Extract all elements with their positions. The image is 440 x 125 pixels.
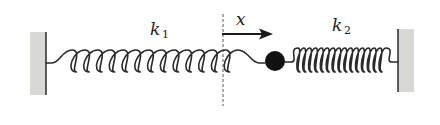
svg-text:1: 1	[162, 28, 169, 41]
right-wall	[398, 29, 414, 92]
svg-text:k: k	[332, 15, 342, 35]
mass	[265, 51, 285, 71]
spring-k2-label: k 2	[332, 15, 351, 37]
svg-text:k: k	[150, 19, 160, 39]
spring-mass-diagram: x k 1 k 2	[0, 0, 440, 125]
spring-k1-label: k 1	[150, 19, 169, 41]
displacement-arrow-icon	[222, 29, 273, 40]
spring-k1	[46, 50, 265, 72]
left-wall	[30, 32, 46, 95]
spring-k2	[285, 48, 398, 72]
svg-text:2: 2	[344, 24, 351, 37]
displacement-label: x	[236, 9, 246, 29]
